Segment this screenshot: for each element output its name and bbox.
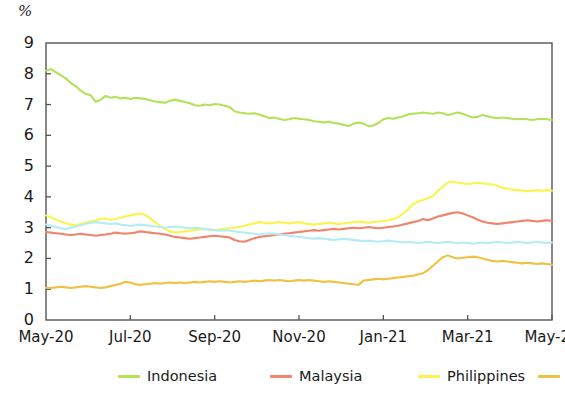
y-tick-label: 3 <box>12 218 34 237</box>
legend-label: Indonesia <box>147 368 217 384</box>
x-tick-label: May-20 <box>1 328 91 346</box>
y-tick-label: 5 <box>12 156 34 175</box>
data-series-lines <box>46 69 552 288</box>
legend-label: Philippines <box>447 368 525 384</box>
legend-item-philippines[interactable]: Philippines <box>418 365 538 387</box>
x-tick-label: Sep-20 <box>170 328 260 346</box>
legend-item-indonesia[interactable]: Indonesia <box>118 365 270 387</box>
y-tick-label: 6 <box>12 125 34 144</box>
legend-swatch-icon <box>418 375 440 378</box>
legend-item-thailand[interactable]: Thailand <box>538 365 565 387</box>
line-chart-figure: % 0123456789 May-20Jul-20Sep-20Nov-20Jan… <box>0 0 565 410</box>
plot-area-svg <box>0 0 565 410</box>
y-tick-label: 2 <box>12 248 34 267</box>
x-tick-label: Jan-21 <box>338 328 428 346</box>
x-tick-label: May-21 <box>507 328 565 346</box>
chart-legend: IndonesiaMalaysiaPhilippinesThailandViet… <box>118 365 518 387</box>
series-line-indonesia <box>46 69 552 126</box>
legend-swatch-icon <box>118 375 140 378</box>
y-tick-label: 7 <box>12 95 34 114</box>
y-axis-ticks <box>46 74 51 289</box>
x-tick-label: Jul-20 <box>85 328 175 346</box>
x-axis-ticks <box>130 315 552 320</box>
legend-swatch-icon <box>270 375 292 378</box>
y-tick-label: 4 <box>12 187 34 206</box>
y-tick-label: 8 <box>12 64 34 83</box>
plot-frame <box>46 43 552 320</box>
y-tick-label: 1 <box>12 279 34 298</box>
x-tick-label: Mar-21 <box>423 328 513 346</box>
x-tick-label: Nov-20 <box>254 328 344 346</box>
legend-item-malaysia[interactable]: Malaysia <box>270 365 418 387</box>
y-tick-label: 9 <box>12 33 34 52</box>
series-line-thailand <box>46 255 552 288</box>
legend-swatch-icon <box>538 375 560 378</box>
y-tick-label: 0 <box>12 310 34 329</box>
legend-label: Malaysia <box>299 368 362 384</box>
